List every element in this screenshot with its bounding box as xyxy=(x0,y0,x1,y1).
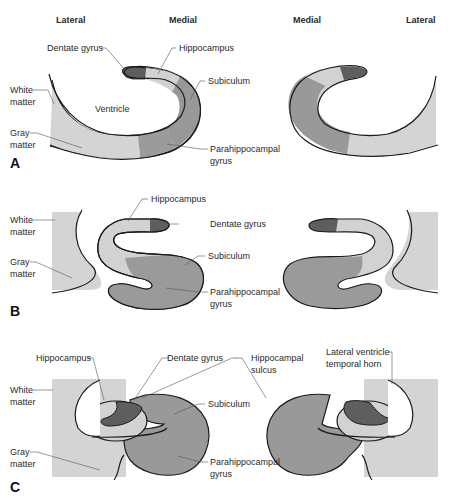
label-b-parahippocampal-1: Parahippocampal xyxy=(210,287,280,298)
panel-b-left-drawing xyxy=(52,210,203,309)
label-b-dentate-gyrus: Dentate gyrus xyxy=(210,219,266,230)
label-c-gray-matter-2: matter xyxy=(10,459,36,470)
label-a-dentate-gyrus: Dentate gyrus xyxy=(47,43,103,54)
label-c-dentate-gyrus: Dentate gyrus xyxy=(167,353,223,364)
label-b-white-matter-1: White xyxy=(10,215,33,226)
panel-c-left-drawing xyxy=(52,379,209,480)
panel-letter-a: A xyxy=(10,155,20,171)
label-a-ventricle: Ventricle xyxy=(95,104,130,115)
label-a-white-matter-2: matter xyxy=(10,97,36,108)
label-a-hippocampus: Hippocampus xyxy=(179,43,234,54)
panel-letter-c: C xyxy=(10,479,20,495)
label-a-parahippocampal-2: gyrus xyxy=(210,156,232,167)
label-c-parahippocampal-1: Parahippocampal xyxy=(210,457,280,468)
label-b-subiculum: Subiculum xyxy=(208,251,250,262)
header-right-lateral: Lateral xyxy=(406,15,436,25)
label-c-white-matter-1: White xyxy=(10,385,33,396)
label-a-parahippocampal-1: Parahippocampal xyxy=(210,144,280,155)
panel-c-right-drawing xyxy=(267,379,438,480)
panel-a-right-drawing xyxy=(289,66,438,157)
label-a-gray-matter-2: matter xyxy=(10,140,36,151)
label-b-parahippocampal-2: gyrus xyxy=(210,299,232,310)
label-a-white-matter-1: White xyxy=(10,85,33,96)
label-c-hippocampal-sulcus-1: Hippocampal xyxy=(251,353,304,364)
header-left-lateral: Lateral xyxy=(56,15,86,25)
panel-b-right-drawing xyxy=(283,210,438,308)
header-left-medial: Medial xyxy=(169,15,197,25)
header-right-medial: Medial xyxy=(293,15,321,25)
label-c-subiculum: Subiculum xyxy=(208,399,250,410)
panel-letter-b: B xyxy=(10,303,20,319)
label-b-hippocampus: Hippocampus xyxy=(151,194,206,205)
label-c-white-matter-2: matter xyxy=(10,397,36,408)
label-b-gray-matter-2: matter xyxy=(10,269,36,280)
label-c-lateral-ventricle-1: Lateral ventricle xyxy=(326,347,390,358)
label-c-gray-matter-1: Gray xyxy=(10,447,30,458)
label-c-hippocampus: Hippocampus xyxy=(36,353,91,364)
label-c-lateral-ventricle-2: temporal horn xyxy=(326,359,382,370)
label-b-gray-matter-1: Gray xyxy=(10,257,30,268)
label-a-gray-matter-1: Gray xyxy=(10,128,30,139)
label-c-hippocampal-sulcus-2: sulcus xyxy=(251,365,277,376)
label-b-white-matter-2: matter xyxy=(10,227,36,238)
label-a-subiculum: Subiculum xyxy=(208,76,250,87)
label-c-parahippocampal-2: gyrus xyxy=(210,469,232,480)
